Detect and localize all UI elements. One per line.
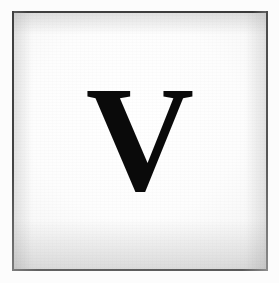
letter-glyph-v: V [86,64,194,214]
letter-card-image: V [0,0,279,283]
framed-card: V [12,11,268,271]
letter-layer: V [12,11,268,271]
